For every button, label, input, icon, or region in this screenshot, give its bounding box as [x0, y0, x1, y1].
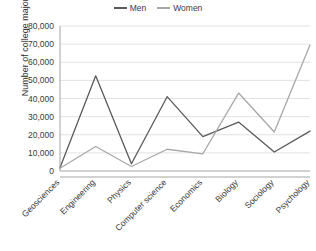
y-tick-label: 20,000: [28, 130, 54, 140]
chart-plot-area: 80,00070,00060,00050,00040,00030,00020,0…: [0, 0, 316, 251]
data-series: [60, 45, 310, 168]
series-line-men: [60, 76, 310, 168]
axes: [60, 26, 310, 177]
x-tick-label: Psychology: [274, 177, 312, 215]
y-tick-label: 80,000: [28, 21, 54, 31]
x-tick-label: Economics: [168, 177, 204, 213]
gridlines: [60, 26, 310, 153]
line-chart: Men Women Number of college majors 80,00…: [0, 0, 316, 251]
x-tick-label: Geosciences: [20, 177, 62, 219]
x-tick-label: Engineering: [58, 177, 97, 216]
y-tick-label: 60,000: [28, 57, 54, 67]
x-tick-label: Physics: [105, 177, 133, 205]
y-tick-label: 40,000: [28, 94, 54, 104]
y-axis-tick-labels: 80,00070,00060,00050,00040,00030,00020,0…: [28, 21, 54, 176]
y-tick-label: 50,000: [28, 75, 54, 85]
y-tick-label: 10,000: [28, 148, 54, 158]
x-axis-tick-labels: GeosciencesEngineeringPhysicsComputer sc…: [20, 177, 312, 233]
x-tick-label: Sociology: [243, 177, 277, 211]
y-tick-label: 30,000: [28, 112, 54, 122]
x-tick-label: Biology: [213, 177, 240, 204]
y-tick-label: 70,000: [28, 39, 54, 49]
y-tick-label: 0: [49, 166, 54, 176]
